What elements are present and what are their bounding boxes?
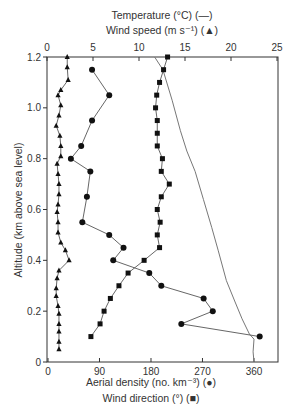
triangle-marker [65, 64, 70, 69]
series-square [88, 55, 171, 340]
square-marker [157, 80, 162, 85]
left-tick-label: 1.2 [27, 52, 41, 63]
left-tick-label: 0.4 [27, 255, 41, 266]
square-marker [165, 55, 170, 60]
triangle-marker [66, 77, 71, 82]
top-tick-label: 0 [44, 42, 50, 53]
triangle-marker [66, 257, 71, 262]
circle-marker [210, 308, 216, 314]
bottom-tick-label: 180 [143, 366, 160, 377]
series-none [155, 57, 254, 362]
square-marker [88, 334, 93, 339]
top-tick-label: 15 [179, 42, 191, 53]
triangle-marker [54, 293, 59, 298]
square-marker [158, 220, 163, 225]
bottom-tick-label: 360 [246, 366, 263, 377]
left-tick-label: 0 [35, 357, 41, 368]
square-marker [142, 258, 147, 263]
circle-marker [84, 194, 90, 200]
top-tick-label: 10 [133, 42, 145, 53]
circle-marker [106, 92, 112, 98]
square-marker [153, 105, 158, 110]
chart: Temperature (°C) (—) Wind speed (m s⁻¹) … [0, 0, 288, 414]
triangle-marker [56, 329, 61, 334]
square-marker [160, 156, 165, 161]
triangle-marker [56, 339, 61, 344]
triangle-marker [56, 346, 61, 351]
triangle-marker [58, 240, 63, 245]
triangle-marker [55, 209, 60, 214]
series-triangle [54, 54, 72, 351]
circle-marker [178, 321, 184, 327]
top-tick-label: 20 [225, 42, 237, 53]
square-marker [116, 283, 121, 288]
bottom-axis-title-aerial-density: Aerial density (no. km⁻³) (●) [86, 376, 216, 388]
triangle-marker [58, 143, 63, 148]
square-marker [155, 207, 160, 212]
data-series [54, 54, 263, 362]
triangle-marker [55, 161, 60, 166]
triangle-marker [57, 133, 62, 138]
circle-marker [110, 257, 116, 263]
square-marker [155, 143, 160, 148]
circle-marker [257, 334, 263, 340]
triangle-marker [58, 153, 63, 158]
left-tick-label: 0.2 [27, 306, 41, 317]
circle-marker [121, 245, 127, 251]
square-marker [154, 93, 159, 98]
top-tick-label: 5 [90, 42, 96, 53]
square-marker [155, 131, 160, 136]
circle-marker [79, 219, 85, 225]
axis-ticks [43, 57, 277, 362]
circle-marker [89, 67, 95, 73]
triangle-marker [55, 229, 60, 234]
circle-marker [106, 232, 112, 238]
square-marker [108, 296, 113, 301]
triangle-marker [55, 219, 60, 224]
triangle-marker [55, 171, 60, 176]
triangle-marker [56, 191, 61, 196]
square-marker [167, 182, 172, 187]
circle-marker [87, 168, 93, 174]
top-axis-title-temperature: Temperature (°C) (—) [111, 9, 212, 21]
square-marker [159, 194, 164, 199]
triangle-marker [56, 311, 61, 316]
circle-marker [68, 156, 74, 162]
square-marker [159, 169, 164, 174]
square-marker [126, 271, 131, 276]
left-tick-label: 0.8 [27, 153, 41, 164]
circle-marker [78, 143, 84, 149]
bottom-tick-label: 0 [45, 366, 51, 377]
circle-marker [89, 118, 95, 124]
left-axis-title: Altitude (km above sea level) [12, 143, 24, 278]
triangle-marker [55, 92, 60, 97]
triangle-marker [56, 181, 61, 186]
triangle-marker [56, 112, 61, 117]
bottom-axis-title-wind-direction: Wind direction (°) (■) [103, 392, 200, 404]
top-axis-title-wind-speed: Wind speed (m s⁻¹) (▲) [106, 24, 218, 36]
triangle-marker [58, 102, 63, 107]
bottom-tick-label: 90 [94, 366, 106, 377]
left-tick-label: 1.0 [27, 102, 41, 113]
triangle-marker [55, 303, 60, 308]
square-marker [155, 118, 160, 123]
square-marker [157, 245, 162, 250]
triangle-marker [55, 201, 60, 206]
square-marker [161, 67, 166, 72]
left-tick-label: 0.6 [27, 204, 41, 215]
top-tick-label: 25 [271, 42, 283, 53]
square-marker [155, 232, 160, 237]
triangle-marker [55, 275, 60, 280]
triangle-marker [54, 285, 59, 290]
triangle-marker [56, 321, 61, 326]
circle-marker [158, 283, 164, 289]
square-marker [102, 309, 107, 314]
triangle-marker [54, 123, 59, 128]
bottom-tick-label: 270 [194, 366, 211, 377]
circle-marker [146, 270, 152, 276]
circle-marker [201, 295, 207, 301]
square-marker [98, 321, 103, 326]
plot-frame [47, 57, 278, 362]
